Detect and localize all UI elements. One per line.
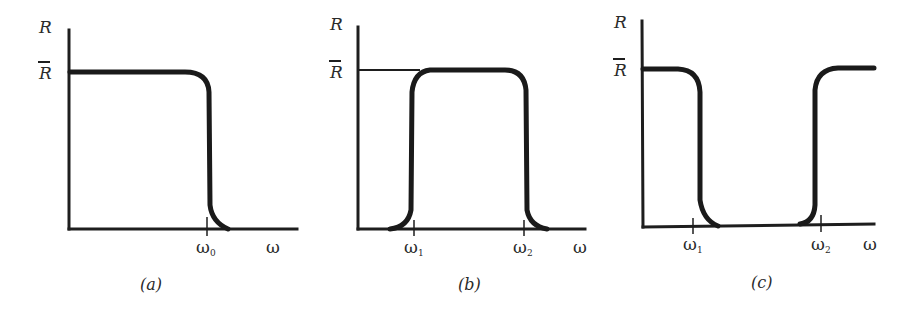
y-axis — [642, 21, 643, 227]
panel-b: R R ω1 ω2 ω (b) — [329, 14, 587, 294]
response-curve-right — [800, 68, 874, 224]
y-axis-label: R — [613, 12, 627, 32]
response-curve-left — [643, 69, 718, 226]
panel-a: R R ω0 ω (a) — [38, 17, 297, 294]
caption-c: (c) — [751, 273, 772, 292]
rbar-label: R — [329, 62, 343, 82]
caption-a: (a) — [140, 275, 162, 294]
caption-b: (b) — [458, 275, 481, 294]
x-axis — [643, 224, 874, 227]
x-axis-label: ω — [863, 234, 877, 254]
omega0-label: ω0 — [196, 237, 216, 258]
omega1-label: ω1 — [404, 237, 424, 258]
x-axis-label: ω — [266, 237, 280, 257]
rbar-label: R — [613, 60, 627, 80]
x-axis-label: ω — [573, 237, 587, 257]
response-curve — [390, 70, 547, 229]
omega2-label: ω2 — [811, 234, 831, 255]
response-curve — [70, 72, 228, 229]
y-axis-label: R — [329, 14, 343, 34]
filter-response-figure: R R ω0 ω (a) R R ω1 ω2 ω (b) R R — [0, 0, 922, 310]
y-axis-label: R — [38, 17, 52, 37]
panel-c: R R ω1 ω2 ω (c) — [613, 12, 877, 292]
rbar-label: R — [38, 63, 52, 83]
omega1-label: ω1 — [683, 234, 703, 255]
omega2-label: ω2 — [513, 237, 533, 258]
